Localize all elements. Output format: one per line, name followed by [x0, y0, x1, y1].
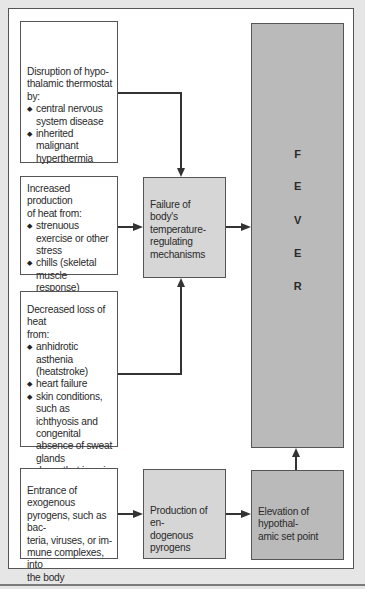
fever-letter: V — [252, 214, 343, 226]
arrow-right-icon — [241, 223, 251, 231]
connector-line — [295, 456, 297, 470]
cause-item: heart failure — [27, 378, 113, 390]
arrow-right-icon — [133, 223, 143, 231]
cause-box-thermostat-disruption: Disruption of hypo- thalamic thermostat … — [20, 21, 118, 163]
fever-letter: E — [252, 247, 343, 259]
arrow-up-icon — [292, 448, 300, 457]
connector-line — [118, 373, 182, 375]
cause-box-increased-heat-production: Increased production of heat from: stren… — [20, 176, 118, 275]
endogenous-pyrogen-production-box: Production of en- dogenous pyrogens — [143, 469, 226, 559]
connector-line — [118, 92, 182, 94]
cause-heading: Decreased loss of heat from: — [27, 304, 113, 341]
cause-item: chills (skeletal muscle response) — [27, 257, 113, 294]
cause-item: strenuous exercise or other stress — [27, 220, 113, 257]
hypothalamic-set-point-box: Elevation of hypothal- amic set point — [251, 470, 344, 560]
fever-outcome-box: F E V E R — [251, 23, 344, 448]
page-divider — [0, 584, 365, 586]
arrow-down-icon — [177, 168, 185, 177]
arrow-right-icon — [133, 510, 143, 518]
cause-item: inherited malignant hyperthermia — [27, 128, 113, 165]
failure-regulating-mechanisms-box: Failure of body's temperature- regulatin… — [143, 177, 226, 278]
connector-line — [180, 286, 182, 375]
exogenous-pyrogens-box: Entrance of exogenous pyrogens, such as … — [20, 468, 118, 559]
cause-box-decreased-heat-loss: Decreased loss of heat from: anhidrotic … — [20, 291, 118, 447]
arrow-up-icon — [177, 278, 185, 287]
fever-letter: E — [252, 180, 343, 192]
cause-list: central nervous system disease inherited… — [27, 103, 113, 165]
fever-letter: R — [252, 280, 343, 292]
fever-letter: F — [252, 148, 343, 160]
arrow-right-icon — [241, 510, 251, 518]
cause-item: anhidrotic asthenia (heatstroke) — [27, 341, 113, 378]
connector-line — [180, 92, 182, 169]
cause-heading: Increased production of heat from: — [27, 183, 113, 220]
cause-heading: Disruption of hypo- thalamic thermostat … — [27, 66, 113, 103]
cause-item: central nervous system disease — [27, 103, 113, 128]
cause-item: skin conditions, such as ichthyosis and … — [27, 391, 113, 465]
